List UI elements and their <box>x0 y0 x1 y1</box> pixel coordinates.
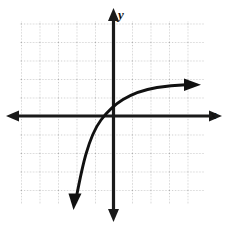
coordinate-plane-svg <box>0 0 229 229</box>
grid-area <box>19 21 204 204</box>
x-axis-label: x <box>210 108 217 121</box>
grid-lines <box>19 21 204 204</box>
graph-figure: x y <box>0 0 229 229</box>
y-axis-down-arrowhead <box>108 209 119 222</box>
y-axis-label: y <box>118 8 124 21</box>
x-axis-left-arrowhead <box>6 111 19 122</box>
